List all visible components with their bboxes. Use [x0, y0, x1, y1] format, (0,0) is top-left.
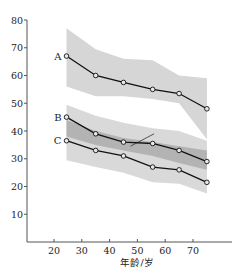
y-tick-label: 70 — [11, 42, 23, 53]
y-tick-label: 30 — [11, 153, 23, 164]
x-tick-label: 30 — [76, 245, 88, 256]
data-point-B — [93, 131, 98, 136]
y-tick-label: 20 — [11, 181, 23, 192]
series-label-C: C — [54, 135, 62, 146]
y-tick-label: 10 — [11, 209, 23, 220]
data-point-A — [205, 107, 210, 112]
chart: ABC 1020304050607080 203040506070 年龄/岁 — [0, 0, 244, 280]
data-point-A — [64, 54, 69, 59]
shaded-ranges — [67, 28, 207, 193]
y-tick-label: 60 — [11, 70, 23, 81]
data-point-A — [150, 87, 155, 92]
x-tick-label: 50 — [131, 245, 143, 256]
x-tick-label: 70 — [187, 245, 199, 256]
data-point-C — [150, 165, 155, 170]
data-point-C — [64, 138, 69, 143]
y-tick-label: 40 — [11, 126, 23, 137]
data-point-A — [121, 80, 126, 85]
data-point-B — [64, 115, 69, 120]
x-tick-label: 60 — [159, 245, 171, 256]
data-point-C — [205, 180, 210, 185]
data-point-B — [177, 148, 182, 153]
data-point-A — [177, 91, 182, 96]
y-tick-label: 50 — [11, 98, 23, 109]
y-tick-label: 80 — [11, 15, 23, 26]
x-tick-label: 20 — [48, 245, 60, 256]
data-point-B — [121, 140, 126, 145]
data-point-C — [177, 168, 182, 173]
data-point-A — [93, 73, 98, 78]
data-point-C — [93, 148, 98, 153]
series-label-A: A — [53, 51, 62, 62]
x-tick-label: 40 — [104, 245, 116, 256]
data-point-B — [150, 141, 155, 146]
data-point-C — [121, 154, 126, 159]
y-ticks: 1020304050607080 — [11, 15, 27, 220]
data-point-B — [205, 159, 210, 164]
x-axis-title: 年龄/岁 — [120, 257, 153, 268]
series-label-B: B — [54, 112, 61, 123]
